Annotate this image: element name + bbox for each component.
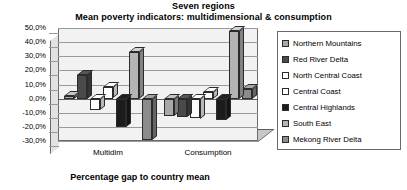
bar-face xyxy=(216,99,226,120)
legend-item-label: Central Coast xyxy=(293,87,341,96)
bar-side xyxy=(226,95,231,120)
bar-face xyxy=(164,99,174,116)
bar-side xyxy=(126,95,131,127)
bar-column xyxy=(164,99,174,116)
legend-item[interactable]: Northern Mountains xyxy=(282,35,400,51)
gridline-side-tick xyxy=(49,146,59,147)
y-axis-tick-label: -20,0% xyxy=(22,123,46,131)
legend-item-label: Mekong River Delta xyxy=(293,135,361,144)
legend-item[interactable]: North Central Coast xyxy=(282,67,400,83)
y-axis-tick-label: 40,0% xyxy=(25,38,46,46)
bar-column xyxy=(116,99,126,127)
y-axis-tick-label: 30,0% xyxy=(25,52,46,60)
bar-face xyxy=(129,52,139,99)
bar-face xyxy=(64,96,74,99)
legend-item[interactable]: Central Coast xyxy=(282,83,400,99)
chart-plot-region: 50,0%40,0%30,0%20,0%10,0%0,0%-10,0%-20,0… xyxy=(6,28,268,156)
x-axis-title: Percentage gap to country mean xyxy=(6,172,274,183)
x-axis-category-label: Consumption xyxy=(158,148,258,157)
bar-face xyxy=(116,99,126,127)
y-axis-tick-label: -30,0% xyxy=(22,137,46,145)
legend-item[interactable]: Mekong River Delta xyxy=(282,131,400,147)
y-axis-tick-label: -10,0% xyxy=(22,109,46,117)
bar-group-container xyxy=(58,28,258,141)
legend-item[interactable]: South East xyxy=(282,115,400,131)
bar-side xyxy=(87,71,92,99)
legend-swatch-icon xyxy=(282,120,289,127)
chart-title-line1: Seven regions xyxy=(0,1,407,12)
bar-column xyxy=(142,99,152,140)
bar-face xyxy=(229,31,239,99)
x-axis-category-labels: MultidimConsumption xyxy=(50,148,266,160)
chart-title-block: Seven regions Mean poverty indicators: m… xyxy=(0,1,407,23)
chart-page: Seven regions Mean poverty indicators: m… xyxy=(0,0,407,190)
legend-swatch-icon xyxy=(282,136,289,143)
bar-side xyxy=(139,48,144,99)
bar-side xyxy=(239,27,244,99)
legend-swatch-icon xyxy=(282,104,289,111)
legend-swatch-icon xyxy=(282,56,289,63)
legend-item-label: North Central Coast xyxy=(293,71,362,80)
plot-3d xyxy=(50,28,266,156)
y-axis-tick-label: 20,0% xyxy=(25,66,46,74)
y-axis-tick-label: 0,0% xyxy=(29,95,46,103)
legend-item-label: South East xyxy=(293,119,331,128)
legend-item-label: Red River Delta xyxy=(293,55,348,64)
bar-face xyxy=(90,99,100,110)
legend-swatch-icon xyxy=(282,88,289,95)
gridline xyxy=(58,141,258,142)
bar-column xyxy=(64,96,74,99)
chart-legend: Northern MountainsRed River DeltaNorth C… xyxy=(277,31,401,150)
legend-item-label: Northern Mountains xyxy=(293,39,361,48)
legend-item[interactable]: Central Highlands xyxy=(282,99,400,115)
bar-column xyxy=(90,99,100,110)
x-axis-category-label: Multidim xyxy=(58,148,158,157)
bar-column xyxy=(216,99,226,120)
chart-title-line2: Mean poverty indicators: multidimensiona… xyxy=(0,12,407,23)
y-axis-tick-label: 50,0% xyxy=(25,24,46,32)
bar-column xyxy=(129,52,139,99)
y-axis-tick-label: 10,0% xyxy=(25,81,46,89)
bar-side xyxy=(152,95,157,140)
legend-item[interactable]: Red River Delta xyxy=(282,51,400,67)
bar-face xyxy=(142,99,152,140)
legend-item-label: Central Highlands xyxy=(293,103,355,112)
legend-swatch-icon xyxy=(282,72,289,79)
legend-swatch-icon xyxy=(282,40,289,47)
bar-column xyxy=(229,31,239,99)
y-axis: 50,0%40,0%30,0%20,0%10,0%0,0%-10,0%-20,0… xyxy=(6,28,48,146)
